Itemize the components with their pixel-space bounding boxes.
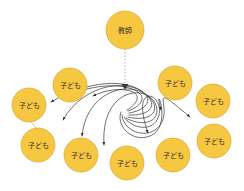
child-node-circle[interactable]	[196, 84, 230, 118]
child-node-circle[interactable]	[53, 68, 87, 102]
node-child-3[interactable]: 子ども	[21, 128, 55, 162]
node-child-5[interactable]: 子ども	[110, 146, 144, 180]
diagram-canvas: 教師 子ども 子ども 子ども 子ども 子ども 子ども	[0, 0, 244, 191]
child-node-circle[interactable]	[64, 138, 98, 172]
child-node-circle[interactable]	[156, 138, 190, 172]
child-node-circle[interactable]	[110, 146, 144, 180]
node-child-6[interactable]: 子ども	[156, 138, 190, 172]
radial-spiral-diagram: 教師 子ども 子ども 子ども 子ども 子ども 子ども	[0, 0, 244, 191]
node-child-9[interactable]: 子ども	[158, 66, 192, 100]
child-node-circle[interactable]	[197, 124, 231, 158]
node-child-2[interactable]: 子ども	[12, 88, 46, 122]
node-teacher[interactable]: 教師	[106, 11, 144, 49]
child-node-circle[interactable]	[21, 128, 55, 162]
node-child-1[interactable]: 子ども	[53, 68, 87, 102]
node-child-7[interactable]: 子ども	[197, 124, 231, 158]
link-child2-child3	[31, 122, 36, 128]
node-child-4[interactable]: 子ども	[64, 138, 98, 172]
node-child-8[interactable]: 子ども	[196, 84, 230, 118]
child-node-circle[interactable]	[12, 88, 46, 122]
spiral-arrow-6	[104, 93, 157, 145]
child-node-circle[interactable]	[158, 66, 192, 100]
teacher-node-circle[interactable]	[106, 11, 144, 49]
